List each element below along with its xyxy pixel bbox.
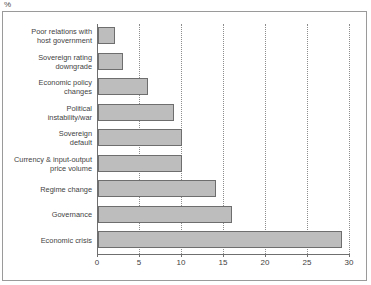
category-label-line: Currency & input-output: [14, 155, 92, 164]
x-tick-label: 30: [334, 257, 364, 268]
bar-row: Politicalinstability/war: [0, 101, 371, 125]
bar: [98, 129, 182, 146]
x-tick-mark-10: [181, 254, 182, 257]
bar: [98, 231, 342, 248]
category-label-line: Sovereign rating: [38, 53, 92, 62]
category-label: Sovereigndefault: [6, 126, 92, 150]
category-label: Politicalinstability/war: [6, 101, 92, 125]
category-label-line: instability/war: [48, 113, 92, 122]
category-label: Economic policychanges: [6, 75, 92, 99]
bar-chart-plot: Poor relations withhost governmentSovere…: [0, 0, 371, 285]
category-label-line: Economic crisis: [41, 236, 92, 245]
bar-row: Governance: [0, 203, 371, 227]
category-label-line: Economic policy: [39, 78, 92, 87]
x-tick-mark-5: [139, 254, 140, 257]
bar: [98, 180, 216, 197]
x-tick-label: 5: [124, 257, 154, 268]
x-tick-label: 20: [250, 257, 280, 268]
category-label-line: Political: [67, 104, 92, 113]
category-label: Sovereign ratingdowngrade: [6, 50, 92, 74]
category-label-line: Regime change: [40, 185, 92, 194]
x-tick-label: 25: [292, 257, 322, 268]
x-tick-label: 15: [208, 257, 238, 268]
bar-row: Regime change: [0, 177, 371, 201]
category-label-line: downgrade: [55, 62, 92, 71]
x-tick-mark-30: [349, 254, 350, 257]
category-label-line: Governance: [52, 210, 92, 219]
category-label: Economic crisis: [6, 228, 92, 252]
bar-row: Currency & input-outputprice volume: [0, 152, 371, 176]
category-label-line: default: [70, 138, 92, 147]
x-tick-label: 0: [82, 257, 112, 268]
category-label-line: host government: [37, 36, 92, 45]
category-label: Currency & input-outputprice volume: [6, 152, 92, 176]
figure: % Poor relations withhost governmentSove…: [0, 0, 371, 285]
bar: [98, 104, 174, 121]
category-label: Regime change: [6, 177, 92, 201]
bar-row: Sovereign ratingdowngrade: [0, 50, 371, 74]
category-label-line: changes: [64, 87, 92, 96]
x-tick-mark-25: [307, 254, 308, 257]
category-label-line: price volume: [50, 164, 92, 173]
bar: [98, 206, 232, 223]
bar-row: Economic policychanges: [0, 75, 371, 99]
bar-row: Sovereigndefault: [0, 126, 371, 150]
bar-row: Economic crisis: [0, 228, 371, 252]
x-tick-mark-0: [97, 254, 98, 257]
x-tick-mark-15: [223, 254, 224, 257]
category-label: Governance: [6, 203, 92, 227]
bar: [98, 155, 182, 172]
bar: [98, 78, 148, 95]
x-tick-label: 10: [166, 257, 196, 268]
x-tick-mark-20: [265, 254, 266, 257]
bar: [98, 53, 123, 70]
category-label: Poor relations withhost government: [6, 24, 92, 48]
x-axis-tick-labels: 051015202530: [0, 257, 371, 271]
bar-row: Poor relations withhost government: [0, 24, 371, 48]
category-label-line: Poor relations with: [31, 27, 92, 36]
bar: [98, 27, 115, 44]
category-label-line: Sovereign: [59, 129, 92, 138]
